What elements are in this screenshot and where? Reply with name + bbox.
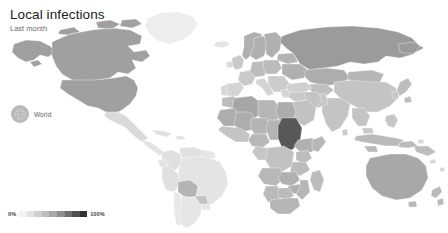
legend-gradient-scale[interactable] — [19, 211, 87, 217]
world-selector-label: World — [34, 111, 51, 118]
country-sri-lanka[interactable] — [342, 129, 348, 136]
legend-swatch-7 — [72, 211, 80, 217]
legend-swatch-4 — [49, 211, 57, 217]
legend-swatch-2 — [34, 211, 42, 217]
legend-swatch-6 — [65, 211, 73, 217]
legend-swatch-1 — [27, 211, 35, 217]
page-subtitle: Last month — [10, 24, 105, 33]
world-choropleth-map[interactable] — [0, 0, 448, 233]
country-tasmania[interactable] — [408, 201, 417, 207]
world-region-selector[interactable]: World — [11, 105, 51, 123]
country-portugal[interactable] — [221, 85, 228, 96]
map-svg — [0, 0, 448, 233]
legend-swatch-8 — [80, 211, 88, 217]
chart-header: Local infections Last month — [10, 7, 105, 33]
legend-swatch-3 — [42, 211, 50, 217]
country-ireland[interactable] — [226, 61, 233, 68]
legend-swatch-0 — [19, 211, 27, 217]
legend: 0% 100% — [8, 211, 105, 217]
country-uruguay[interactable] — [202, 204, 210, 210]
globe-icon — [11, 105, 29, 123]
map-widget: Local infections Last month World 0% 100… — [0, 0, 448, 233]
legend-swatch-5 — [57, 211, 65, 217]
country-korea[interactable] — [392, 91, 399, 98]
legend-max-label: 100% — [90, 211, 104, 217]
country-malaysia[interactable] — [362, 128, 374, 134]
page-title: Local infections — [10, 7, 105, 22]
legend-min-label: 0% — [8, 211, 16, 217]
